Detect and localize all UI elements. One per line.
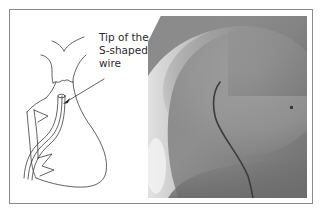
aorta-right-wall — [73, 55, 86, 82]
chamber-left-side — [27, 112, 36, 178]
chamber-left-edge — [27, 98, 46, 112]
annotation-line-3: wire — [99, 57, 149, 70]
leaflet-lower — [38, 154, 54, 176]
fluoroscopy-image — [148, 16, 307, 198]
aorta-left-wall — [41, 55, 53, 83]
annotation-line-2: S-shaped — [99, 44, 149, 57]
leaflet-upper — [34, 110, 48, 122]
vessel-top-left — [52, 41, 64, 51]
heart-left-upper — [46, 82, 56, 98]
xray-upper-right-shadow — [228, 16, 307, 96]
annotation-label: Tip of the S-shaped wire — [99, 31, 149, 70]
wire-tip — [58, 94, 65, 98]
arrow-head-icon — [63, 98, 70, 104]
annotation-line-1: Tip of the — [99, 31, 149, 44]
xray-marker-dot — [290, 106, 293, 109]
vessel-top-right — [64, 37, 84, 51]
